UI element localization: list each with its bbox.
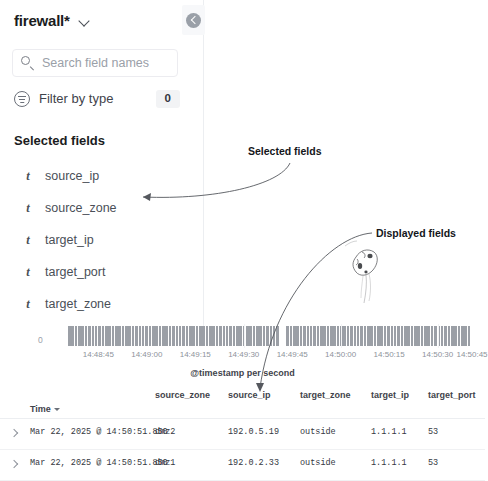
- histogram-bar[interactable]: [394, 326, 397, 346]
- collapse-sidebar-button[interactable]: [182, 5, 205, 35]
- histogram-bar[interactable]: [280, 326, 283, 346]
- histogram-bar[interactable]: [115, 326, 118, 346]
- histogram-bar[interactable]: [354, 326, 357, 346]
- histogram-bar[interactable]: [387, 326, 390, 346]
- histogram-bar[interactable]: [108, 326, 111, 346]
- histogram-bar[interactable]: [464, 326, 467, 346]
- histogram-bar[interactable]: [155, 326, 158, 346]
- histogram-bar[interactable]: [417, 326, 420, 346]
- histogram-bar[interactable]: [370, 326, 373, 346]
- histogram-bar[interactable]: [209, 326, 212, 346]
- histogram-bar[interactable]: [327, 326, 330, 346]
- histogram-bar[interactable]: [226, 326, 229, 346]
- histogram-bar[interactable]: [145, 326, 148, 346]
- column-header-target_zone[interactable]: target_zone: [300, 390, 351, 400]
- histogram-bar[interactable]: [206, 326, 209, 346]
- histogram-bar[interactable]: [212, 326, 215, 346]
- histogram-bar[interactable]: [233, 326, 236, 346]
- histogram-bar[interactable]: [461, 326, 464, 346]
- histogram-bar[interactable]: [434, 326, 437, 346]
- histogram-bar[interactable]: [249, 326, 252, 346]
- histogram-bar[interactable]: [68, 326, 71, 346]
- histogram-bar[interactable]: [313, 326, 316, 346]
- column-header-source_zone[interactable]: source_zone: [155, 390, 210, 400]
- histogram-bar[interactable]: [303, 326, 306, 346]
- histogram-bar[interactable]: [112, 326, 115, 346]
- histogram-bar[interactable]: [367, 326, 370, 346]
- histogram-bar[interactable]: [219, 326, 222, 346]
- histogram-bar[interactable]: [263, 326, 266, 346]
- histogram-bar[interactable]: [454, 326, 457, 346]
- search-input[interactable]: [42, 56, 169, 70]
- histogram-bar[interactable]: [441, 326, 444, 346]
- histogram-bar[interactable]: [81, 326, 84, 346]
- histogram-bar[interactable]: [125, 326, 128, 346]
- histogram-bar[interactable]: [259, 326, 262, 346]
- histogram-bar[interactable]: [223, 326, 226, 346]
- histogram-bar[interactable]: [85, 326, 88, 346]
- histogram-bar[interactable]: [427, 326, 430, 346]
- column-header-source_ip[interactable]: source_ip: [228, 390, 271, 400]
- histogram-bar[interactable]: [186, 326, 189, 346]
- histogram-bar[interactable]: [397, 326, 400, 346]
- histogram-bar[interactable]: [431, 326, 434, 346]
- histogram-bar[interactable]: [276, 326, 279, 346]
- histogram-bar[interactable]: [323, 326, 326, 346]
- histogram-bar[interactable]: [202, 326, 205, 346]
- histogram-bar[interactable]: [142, 326, 145, 346]
- histogram-bar[interactable]: [239, 326, 242, 346]
- histogram-bar[interactable]: [270, 326, 273, 346]
- histogram-bar[interactable]: [444, 326, 447, 346]
- table-row[interactable]: Mar 22, 2025 @ 14:50:51.850dmz1192.0.2.3…: [0, 450, 485, 481]
- histogram-bar[interactable]: [229, 326, 232, 346]
- histogram-bar[interactable]: [71, 326, 74, 346]
- histogram-bar[interactable]: [307, 326, 310, 346]
- histogram-bar[interactable]: [414, 326, 417, 346]
- histogram-bar[interactable]: [458, 326, 461, 346]
- histogram-bar[interactable]: [273, 326, 276, 346]
- histogram-bar[interactable]: [199, 326, 202, 346]
- histogram-bar[interactable]: [377, 326, 380, 346]
- histogram-bar[interactable]: [149, 326, 152, 346]
- field-item-target_zone[interactable]: ttarget_zone: [0, 288, 203, 320]
- field-item-source_zone[interactable]: tsource_zone: [0, 192, 203, 224]
- histogram-bar[interactable]: [384, 326, 387, 346]
- histogram-bar[interactable]: [102, 326, 105, 346]
- histogram-bar[interactable]: [404, 326, 407, 346]
- histogram-bar[interactable]: [176, 326, 179, 346]
- histogram-bar[interactable]: [421, 326, 424, 346]
- histogram-bar[interactable]: [216, 326, 219, 346]
- histogram-bar[interactable]: [122, 326, 125, 346]
- histogram-bar[interactable]: [196, 326, 199, 346]
- histogram-bar[interactable]: [182, 326, 185, 346]
- histogram-bar[interactable]: [286, 326, 289, 346]
- histogram-bar[interactable]: [92, 326, 95, 346]
- histogram-bar[interactable]: [165, 326, 168, 346]
- chevron-right-icon[interactable]: [11, 459, 17, 469]
- histogram-bar[interactable]: [98, 326, 101, 346]
- chevron-right-icon[interactable]: [11, 428, 17, 438]
- histogram-bar[interactable]: [162, 326, 165, 346]
- histogram-bar[interactable]: [347, 326, 350, 346]
- histogram-bars[interactable]: [68, 326, 472, 346]
- histogram-bar[interactable]: [266, 326, 269, 346]
- histogram-bar[interactable]: [411, 326, 414, 346]
- histogram-bar[interactable]: [75, 326, 78, 346]
- histogram-bar[interactable]: [139, 326, 142, 346]
- histogram-bar[interactable]: [192, 326, 195, 346]
- histogram-bar[interactable]: [296, 326, 299, 346]
- histogram-bar[interactable]: [380, 326, 383, 346]
- histogram-bar[interactable]: [448, 326, 451, 346]
- histogram-bar[interactable]: [350, 326, 353, 346]
- histogram-bar[interactable]: [320, 326, 323, 346]
- histogram-bar[interactable]: [333, 326, 336, 346]
- histogram-bar[interactable]: [172, 326, 175, 346]
- histogram-bar[interactable]: [236, 326, 239, 346]
- histogram-bar[interactable]: [337, 326, 340, 346]
- histogram-bar[interactable]: [293, 326, 296, 346]
- field-item-target_port[interactable]: ttarget_port: [0, 256, 203, 288]
- histogram-bar[interactable]: [88, 326, 91, 346]
- histogram-bar[interactable]: [451, 326, 454, 346]
- histogram-bar[interactable]: [310, 326, 313, 346]
- histogram-bar[interactable]: [401, 326, 404, 346]
